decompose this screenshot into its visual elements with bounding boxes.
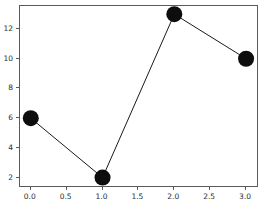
y-axis-tick-label: 4: [0, 142, 13, 151]
x-axis-tick-mark: [137, 187, 138, 190]
y-axis-tick-label: 2: [0, 172, 13, 181]
chart-figure: 24681012 0.00.51.01.52.02.53.0: [0, 0, 264, 221]
y-axis-tick-label: 8: [0, 83, 13, 92]
x-axis-tick-label: 1.5: [131, 192, 143, 201]
x-axis-tick-label: 3.0: [239, 192, 251, 201]
y-axis-tick-label: 6: [0, 113, 13, 122]
x-axis-tick-label: 2.5: [203, 192, 215, 201]
x-axis-tick-mark: [173, 187, 174, 190]
data-point-marker: [238, 51, 254, 67]
line-series-svg: [20, 6, 257, 186]
data-point-marker: [95, 170, 111, 186]
x-axis-tick-mark: [102, 187, 103, 190]
x-axis-tick-label: 0.5: [60, 192, 72, 201]
series-line: [31, 14, 246, 177]
x-axis-tick-mark: [66, 187, 67, 190]
x-axis-tick-mark: [245, 187, 246, 190]
y-axis-tick-label: 12: [0, 24, 13, 33]
x-axis-tick-label: 1.0: [96, 192, 108, 201]
data-point-marker: [23, 110, 39, 126]
data-point-marker: [166, 6, 182, 22]
x-axis-tick-mark: [30, 187, 31, 190]
x-axis-tick-label: 2.0: [167, 192, 179, 201]
x-axis-tick-mark: [209, 187, 210, 190]
y-axis-tick-label: 10: [0, 53, 13, 62]
plot-area: [19, 5, 258, 187]
x-axis-tick-label: 0.0: [24, 192, 36, 201]
